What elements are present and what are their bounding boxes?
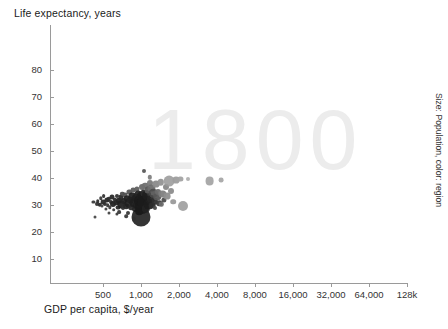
x-tick-mark bbox=[141, 283, 142, 287]
y-tick-label: 40 bbox=[0, 172, 42, 183]
x-tick-mark bbox=[331, 283, 332, 287]
x-tick-mark bbox=[407, 283, 408, 287]
x-tick-label: 500 bbox=[95, 289, 111, 300]
y-tick-label: 20 bbox=[0, 226, 42, 237]
data-bubble[interactable] bbox=[124, 215, 128, 219]
data-bubble[interactable] bbox=[153, 206, 157, 210]
data-bubble[interactable] bbox=[93, 216, 96, 219]
plot-area bbox=[50, 25, 408, 283]
x-tick-label: 4,000 bbox=[205, 289, 229, 300]
data-bubble[interactable] bbox=[186, 177, 190, 181]
y-tick-label: 70 bbox=[0, 91, 42, 102]
x-tick-mark bbox=[103, 283, 104, 287]
bubble-chart: 1800 Life expectancy, years GDP per capi… bbox=[0, 0, 448, 329]
x-tick-label: 2,000 bbox=[167, 289, 191, 300]
size-color-legend-text: Size: Population, color: region bbox=[434, 93, 444, 207]
x-axis-title: GDP per capita, $/year bbox=[44, 303, 154, 315]
data-bubble[interactable] bbox=[142, 169, 146, 173]
size-color-legend-note: Size: Population, color: region bbox=[432, 45, 446, 255]
x-tick-label: 64,000 bbox=[354, 289, 383, 300]
x-tick-mark bbox=[217, 283, 218, 287]
x-tick-label: 128k bbox=[397, 289, 418, 300]
y-tick-label: 60 bbox=[0, 118, 42, 129]
y-tick-label: 50 bbox=[0, 145, 42, 156]
data-bubble[interactable] bbox=[118, 210, 122, 214]
data-bubble[interactable] bbox=[178, 201, 188, 211]
x-tick-label: 32,000 bbox=[316, 289, 345, 300]
y-tick-label: 10 bbox=[0, 253, 42, 264]
x-tick-mark bbox=[293, 283, 294, 287]
data-bubble[interactable] bbox=[219, 178, 224, 183]
x-tick-mark bbox=[179, 283, 180, 287]
x-tick-label: 8,000 bbox=[243, 289, 267, 300]
x-tick-label: 16,000 bbox=[278, 289, 307, 300]
x-tick-mark bbox=[255, 283, 256, 287]
data-bubble[interactable] bbox=[168, 188, 174, 194]
x-tick-mark bbox=[369, 283, 370, 287]
y-tick-label: 80 bbox=[0, 64, 42, 75]
y-axis-title: Life expectancy, years bbox=[14, 7, 121, 19]
data-bubble[interactable] bbox=[170, 199, 176, 205]
data-bubble[interactable] bbox=[205, 177, 214, 186]
y-tick-label: 30 bbox=[0, 199, 42, 210]
x-tick-label: 1,000 bbox=[129, 289, 153, 300]
data-bubble[interactable] bbox=[108, 211, 111, 214]
